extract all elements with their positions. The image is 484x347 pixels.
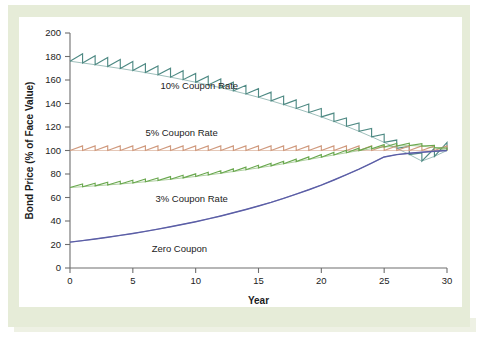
x-tick-label: 25 — [379, 275, 390, 286]
series-label: 10% Coupon Rate — [160, 80, 238, 91]
y-tick-label: 140 — [45, 98, 61, 109]
y-tick-label: 160 — [45, 74, 61, 85]
bond-price-chart: 020406080100120140160180200 051015202530… — [19, 17, 462, 307]
x-tick-label: 10 — [190, 275, 201, 286]
series-envelope — [70, 151, 447, 243]
series-label: 5% Coupon Rate — [145, 127, 217, 138]
figure-frame: 020406080100120140160180200 051015202530… — [0, 0, 484, 347]
y-tick-label: 120 — [45, 121, 61, 132]
series-paths — [70, 54, 447, 242]
x-tick-label: 20 — [316, 275, 327, 286]
y-tick-label: 100 — [45, 145, 61, 156]
x-axis-title: Year — [248, 295, 269, 306]
y-tick-label: 180 — [45, 51, 61, 62]
y-tick-label: 20 — [50, 239, 61, 250]
y-tick-label: 60 — [50, 192, 61, 203]
x-axis-ticks: 051015202530 — [67, 268, 452, 286]
series-label: 3% Coupon Rate — [155, 193, 227, 204]
y-tick-label: 80 — [50, 168, 61, 179]
x-tick-label: 30 — [442, 275, 453, 286]
series-label: Zero Coupon — [152, 243, 207, 254]
x-tick-label: 5 — [130, 275, 135, 286]
y-tick-label: 200 — [45, 27, 61, 38]
series-annotations: 10% Coupon Rate5% Coupon Rate3% Coupon R… — [145, 80, 238, 253]
y-axis-title: Bond Price (% of Face Value) — [24, 82, 35, 220]
x-tick-label: 15 — [253, 275, 264, 286]
series-line — [70, 151, 447, 243]
y-tick-label: 0 — [56, 262, 61, 273]
y-tick-label: 40 — [50, 215, 61, 226]
x-tick-label: 0 — [67, 275, 72, 286]
y-axis-ticks: 020406080100120140160180200 — [45, 27, 70, 273]
